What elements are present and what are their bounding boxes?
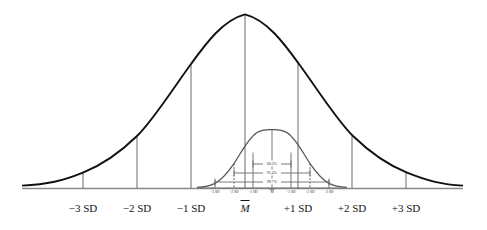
interval-bar-99-label: 99.7%	[267, 180, 278, 184]
outer-label-plus-3sd: +3 SD	[392, 202, 421, 214]
inner-label-minus-2sd: −2 SD	[229, 190, 239, 194]
chart-background	[0, 0, 487, 230]
inner-label-minus-1sd: −1 SD	[248, 190, 258, 194]
outer-label-minus-1sd: −1 SD	[177, 202, 206, 214]
interval-bar-95-label: 95.4%	[267, 171, 278, 175]
normal-distribution-figure: 68.3% 95.4% 99.7% −3 SD −2 SD	[0, 0, 487, 230]
interval-bar-68-label: 68.3%	[267, 162, 278, 166]
inner-label-plus-1sd: +1 SD	[286, 190, 296, 194]
outer-label-minus-2sd: −2 SD	[123, 202, 152, 214]
distribution-chart-svg: 68.3% 95.4% 99.7% −3 SD −2 SD	[0, 0, 487, 230]
outer-label-minus-3sd: −3 SD	[69, 202, 98, 214]
inner-label-plus-3sd: +3 SD	[324, 190, 334, 194]
outer-label-plus-2sd: +2 SD	[338, 202, 367, 214]
outer-label-plus-1sd: +1 SD	[284, 202, 313, 214]
outer-label-mean: M	[239, 202, 250, 214]
inner-label-plus-2sd: +2 SD	[305, 190, 315, 194]
inner-label-minus-3sd: −3 SD	[210, 190, 220, 194]
